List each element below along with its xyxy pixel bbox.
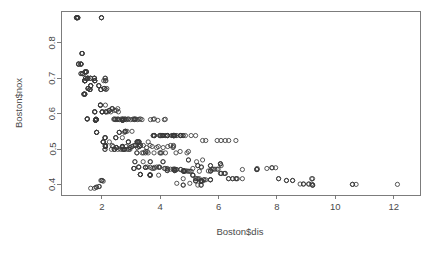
y-tick-label: 0.5 (47, 142, 58, 155)
x-tick-label: 10 (330, 201, 341, 212)
y-tick-label: 0.4 (47, 178, 58, 191)
x-tick-label: 6 (216, 201, 221, 212)
x-tick-label: 8 (274, 201, 279, 212)
x-axis-title: Boston$dis (216, 226, 263, 237)
x-tick-label: 4 (158, 201, 163, 212)
y-tick-label: 0.7 (47, 72, 58, 85)
plot-canvas: 24681012 0.40.50.60.70.8 Boston$dis Bost… (0, 0, 441, 256)
y-tick-label: 0.8 (47, 36, 58, 49)
plot-background (0, 0, 441, 256)
x-tick-label: 2 (99, 201, 104, 212)
y-tick-label: 0.6 (47, 107, 58, 120)
y-axis-title: Boston$nox (13, 78, 24, 128)
x-tick-label: 12 (388, 201, 399, 212)
scatter-plot-figure: 24681012 0.40.50.60.70.8 Boston$dis Bost… (0, 0, 441, 256)
